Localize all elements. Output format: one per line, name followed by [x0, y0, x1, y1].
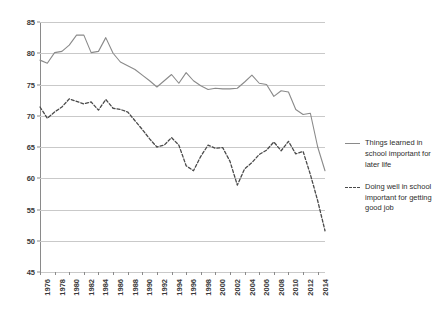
series-paths — [40, 22, 325, 272]
x-tick-mark — [172, 272, 173, 275]
x-tick-label: 2006 — [262, 279, 271, 296]
x-tick-mark — [303, 272, 304, 275]
x-tick-mark — [142, 272, 143, 275]
x-tick-label: 1990 — [145, 279, 154, 296]
x-tick-label: 1982 — [87, 279, 96, 296]
x-tick-label: 1994 — [175, 279, 184, 296]
legend-swatch-solid-icon — [345, 143, 360, 144]
legend: Things learned in school important for l… — [345, 138, 441, 225]
x-tick-mark — [157, 272, 158, 275]
x-tick-label: 1992 — [160, 279, 169, 296]
legend-entry-doing-well: Doing well in school important for getti… — [345, 182, 441, 215]
y-tick-label: 80 — [27, 49, 35, 58]
x-tick-mark — [55, 272, 56, 275]
y-tick-label: 50 — [27, 236, 35, 245]
y-tick-label: 65 — [27, 143, 35, 152]
x-tick-mark — [40, 272, 41, 275]
plot-area: 858075706560555045 — [40, 22, 325, 272]
x-tick-label: 1980 — [72, 279, 81, 296]
x-tick-mark — [186, 272, 187, 275]
x-tick-mark — [215, 272, 216, 275]
x-tick-mark — [113, 272, 114, 275]
x-tick-mark — [259, 272, 260, 275]
x-tick-mark — [201, 272, 202, 275]
x-tick-label: 1986 — [116, 279, 125, 296]
x-tick-mark — [230, 272, 231, 275]
gridline — [40, 272, 325, 273]
x-tick-label: 2012 — [306, 279, 315, 296]
legend-swatch-dashed-icon — [345, 187, 360, 188]
legend-label: Doing well in school important for getti… — [365, 182, 441, 215]
y-tick-label: 60 — [27, 174, 35, 183]
x-tick-mark — [98, 272, 99, 275]
y-tick-label: 85 — [27, 18, 35, 27]
x-tick-mark — [69, 272, 70, 275]
x-tick-mark — [318, 272, 319, 275]
x-tick-label: 1978 — [58, 279, 67, 296]
x-tick-label: 2000 — [218, 279, 227, 296]
x-tick-label: 2010 — [291, 279, 300, 296]
x-tick-mark — [288, 272, 289, 275]
x-tick-mark — [84, 272, 85, 275]
x-tick-label: 1988 — [131, 279, 140, 296]
legend-label: Things learned in school important for l… — [365, 138, 441, 171]
x-tick-label: 2004 — [248, 279, 257, 296]
x-tick-label: 1998 — [204, 279, 213, 296]
x-tick-mark — [274, 272, 275, 275]
x-tick-mark — [128, 272, 129, 275]
y-tick-label: 75 — [27, 80, 35, 89]
y-tick-label: 55 — [27, 205, 35, 214]
x-tick-label: 2008 — [277, 279, 286, 296]
x-tick-mark — [245, 272, 246, 275]
x-tick-label: 2014 — [321, 279, 330, 296]
y-tick-label: 45 — [27, 268, 35, 277]
x-tick-label: 1984 — [101, 279, 110, 296]
series-line — [40, 99, 325, 231]
x-tick-label: 1976 — [43, 279, 52, 296]
line-chart: 858075706560555045 197619781980198219841… — [0, 0, 446, 328]
x-tick-label: 1996 — [189, 279, 198, 296]
x-tick-label: 2002 — [233, 279, 242, 296]
y-tick-label: 70 — [27, 111, 35, 120]
legend-entry-things-learned: Things learned in school important for l… — [345, 138, 441, 171]
